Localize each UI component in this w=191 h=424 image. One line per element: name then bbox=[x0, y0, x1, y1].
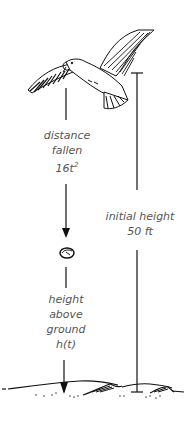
seagull-icon bbox=[28, 30, 154, 109]
distance-fallen-line1: distance bbox=[36, 128, 98, 143]
height-line3: ground bbox=[36, 322, 96, 337]
height-function: h(t) bbox=[36, 337, 96, 352]
distance-arrow bbox=[62, 184, 70, 238]
height-line1: height bbox=[36, 292, 96, 307]
distance-fallen-label: distance fallen 16t2 bbox=[36, 128, 98, 176]
distance-fallen-expression: 16t2 bbox=[36, 158, 98, 176]
height-arrow bbox=[60, 360, 68, 394]
ground-icon bbox=[2, 381, 184, 395]
stone-icon bbox=[60, 248, 74, 258]
ground-pebbles bbox=[35, 392, 160, 398]
height-above-ground-label: height above ground h(t) bbox=[36, 292, 96, 352]
distance-fallen-line2: fallen bbox=[36, 143, 98, 158]
initial-height-label: initial height 50 ft bbox=[104, 209, 176, 239]
height-line2: above bbox=[36, 307, 96, 322]
falling-object-diagram: distance fallen 16t2 initial height 50 f… bbox=[0, 0, 191, 424]
initial-height-line1: initial height bbox=[104, 209, 176, 224]
initial-height-value: 50 ft bbox=[104, 224, 176, 239]
